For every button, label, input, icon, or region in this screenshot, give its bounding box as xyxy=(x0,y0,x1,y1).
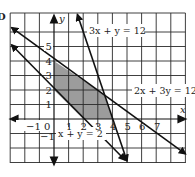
x-tick-label: 2 xyxy=(81,121,87,132)
equation-label-2x-plus-3y: 2x + 3y = 12 xyxy=(134,85,195,96)
x-tick-label: 5 xyxy=(125,121,131,132)
y-axis-arrow-down-icon xyxy=(51,157,58,165)
x-tick-label: 6 xyxy=(139,121,145,132)
x-tick-label: 4 xyxy=(110,121,116,132)
y-tick-label: 1 xyxy=(46,99,52,110)
linear-inequality-graph: 3x + y = 12 2x + 3y = 12 x + y = 2 y x −… xyxy=(0,0,195,177)
y-tick-label: 2 xyxy=(46,85,52,96)
y-axis-arrow-up-icon xyxy=(51,15,58,23)
x-tick-label: −1 xyxy=(26,121,41,132)
x-tick-label: 1 xyxy=(66,121,72,132)
corner-mark: D xyxy=(0,11,6,22)
x-axis-arrow-right-icon xyxy=(178,116,186,123)
y-axis-label: y xyxy=(58,13,65,24)
y-tick-label: 5 xyxy=(46,41,52,52)
x-tick-label: 7 xyxy=(154,121,160,132)
equation-label-3x-plus-y: 3x + y = 12 xyxy=(89,25,146,36)
y-tick-label: −1 xyxy=(40,131,55,142)
x-tick-label: 3 xyxy=(95,121,101,132)
x-axis-label: x xyxy=(180,104,186,115)
y-tick-label: 4 xyxy=(46,56,52,67)
y-tick-label: 3 xyxy=(46,70,52,81)
